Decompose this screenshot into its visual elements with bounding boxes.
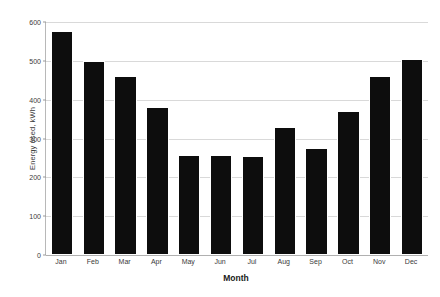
y-tick-label: 200 — [29, 174, 41, 181]
bar — [305, 148, 327, 255]
bar — [114, 76, 136, 255]
y-tick-label: 400 — [29, 96, 41, 103]
bars — [46, 22, 428, 255]
bar — [210, 155, 232, 255]
y-tick-label: 600 — [29, 19, 41, 26]
bar-chart: Energy used, kWh 0100200300400500600 Jan… — [0, 0, 440, 297]
x-tick-label: Apr — [151, 258, 162, 265]
y-tick-label: 0 — [37, 252, 41, 259]
x-tick-label: Dec — [405, 258, 417, 265]
x-tick-label: May — [182, 258, 195, 265]
x-tick-label: Aug — [278, 258, 290, 265]
gridline — [46, 255, 428, 256]
y-tick-label: 500 — [29, 57, 41, 64]
x-tick-label: Nov — [373, 258, 385, 265]
bar — [369, 76, 391, 255]
bar — [83, 61, 105, 255]
bar — [146, 107, 168, 255]
bar — [178, 155, 200, 255]
x-tick-label: Mar — [119, 258, 131, 265]
y-tick-label: 300 — [29, 135, 41, 142]
bar — [242, 156, 264, 255]
x-tick-label: Sep — [309, 258, 321, 265]
x-axis-tick-labels: JanFebMarAprMayJunJulAugSepOctNovDec — [45, 258, 427, 272]
x-tick-label: Feb — [87, 258, 99, 265]
x-tick-label: Oct — [342, 258, 353, 265]
y-tick-label: 100 — [29, 213, 41, 220]
x-tick-label: Jan — [55, 258, 66, 265]
x-tick-label: Jun — [214, 258, 225, 265]
bar — [337, 111, 359, 255]
x-axis-title: Month — [45, 273, 427, 283]
x-tick-label: Jul — [247, 258, 256, 265]
bar — [274, 127, 296, 255]
plot-area: 0100200300400500600 — [45, 22, 428, 255]
bar — [51, 31, 73, 255]
bar — [401, 59, 423, 255]
